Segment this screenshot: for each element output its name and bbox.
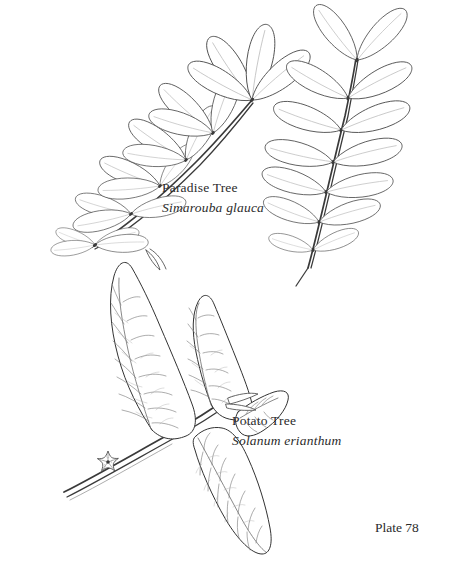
- paradise-common-name: Paradise Tree: [162, 181, 264, 195]
- solanum-flower: [97, 451, 118, 471]
- simarouba-right-leaf: [259, 0, 417, 286]
- solanum-leaf-middle: [187, 295, 252, 420]
- potato-common-name: Potato Tree: [232, 414, 342, 428]
- botanical-plate: .out { fill:#ffffff; stroke:#4a4a4a; str…: [0, 0, 466, 581]
- plate-number: Plate 78: [375, 520, 419, 536]
- paradise-scientific-name: Simarouba glauca: [162, 201, 264, 215]
- label-paradise-tree: Paradise Tree Simarouba glauca: [162, 181, 264, 214]
- label-potato-tree: Potato Tree Solanum erianthum: [232, 414, 342, 447]
- potato-scientific-name: Solanum erianthum: [232, 434, 342, 448]
- solanum-branch: [64, 262, 288, 554]
- botanical-illustration: .out { fill:#ffffff; stroke:#4a4a4a; str…: [0, 0, 466, 581]
- solanum-leaf-upper-left: [111, 262, 196, 438]
